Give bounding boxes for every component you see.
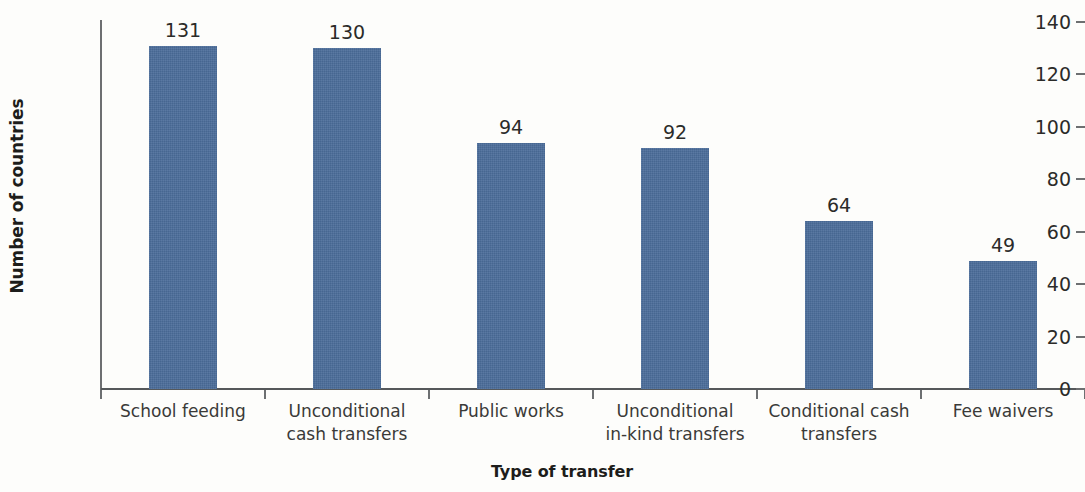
x-axis-tick <box>264 390 266 399</box>
x-axis-category-label-line: Fee waivers <box>921 400 1085 423</box>
y-axis-tick-label: 0 <box>1059 378 1071 400</box>
y-axis-tick-label: 100 <box>1035 116 1071 138</box>
bar <box>313 48 381 389</box>
bar-texture <box>313 48 381 389</box>
y-axis-tick <box>1076 336 1085 338</box>
x-axis-title: Type of transfer <box>101 462 1023 481</box>
bar-texture <box>969 261 1037 389</box>
bar <box>641 148 709 389</box>
y-axis-tick <box>1076 126 1085 128</box>
x-axis-category-label-line: School feeding <box>101 400 265 423</box>
x-axis-category-label: Unconditionalin-kind transfers <box>593 400 757 446</box>
x-axis-category-label-line: Public works <box>429 400 593 423</box>
x-axis-category-label-line: Unconditional <box>593 400 757 423</box>
x-axis-category-label: Conditional cashtransfers <box>757 400 921 446</box>
y-axis-title: Number of countries <box>0 0 34 392</box>
y-axis-tick <box>1076 231 1085 233</box>
bar-texture <box>149 46 217 389</box>
bar-value-label: 92 <box>593 121 757 143</box>
bar-texture <box>805 221 873 389</box>
x-axis-category-label-line: transfers <box>757 423 921 446</box>
y-axis-tick <box>1076 73 1085 75</box>
y-axis-tick <box>1076 283 1085 285</box>
y-axis-tick-label: 20 <box>1047 326 1071 348</box>
x-axis-category-label-line: Conditional cash <box>757 400 921 423</box>
bar <box>477 143 545 389</box>
bar-value-label: 49 <box>921 234 1085 256</box>
bar-value-label: 94 <box>429 116 593 138</box>
y-axis-tick <box>1076 21 1085 23</box>
bar <box>149 46 217 389</box>
bar <box>805 221 873 389</box>
y-axis-tick-label: 120 <box>1035 63 1071 85</box>
x-axis-category-label: School feeding <box>101 400 265 423</box>
y-axis-tick-label: 80 <box>1047 168 1071 190</box>
y-axis-tick <box>1076 178 1085 180</box>
bar-value-label: 131 <box>101 19 265 41</box>
x-axis-category-label: Public works <box>429 400 593 423</box>
x-axis-category-label: Unconditionalcash transfers <box>265 400 429 446</box>
x-axis-tick <box>100 390 102 399</box>
x-axis-category-label-line: cash transfers <box>265 423 429 446</box>
bar-value-label: 64 <box>757 194 921 216</box>
y-axis-tick-label: 40 <box>1047 273 1071 295</box>
y-axis-tick-label: 140 <box>1035 11 1071 33</box>
bar-texture <box>641 148 709 389</box>
x-axis-tick <box>428 390 430 399</box>
bar <box>969 261 1037 389</box>
y-axis-title-text: Number of countries <box>7 98 27 293</box>
x-axis-tick <box>592 390 594 399</box>
x-axis-tick <box>920 390 922 399</box>
x-axis-tick <box>756 390 758 399</box>
bar-texture <box>477 143 545 389</box>
bar-value-label: 130 <box>265 21 429 43</box>
bar-chart: Number of countries 02040608010012014013… <box>0 0 1085 492</box>
x-axis-category-label-line: Unconditional <box>265 400 429 423</box>
x-axis-category-label-line: in-kind transfers <box>593 423 757 446</box>
plot-area: 02040608010012014013113094926449 <box>101 22 1085 389</box>
x-axis-category-label: Fee waivers <box>921 400 1085 423</box>
